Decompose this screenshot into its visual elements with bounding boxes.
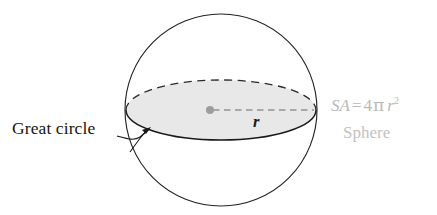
formula-radius-variable: r xyxy=(384,96,394,115)
formula-lhs: SA xyxy=(331,96,350,115)
formula-exponent: 2 xyxy=(394,95,399,106)
radius-variable-label: r xyxy=(253,114,259,131)
great-circle-label: Great circle xyxy=(12,120,95,138)
center-dot xyxy=(206,106,214,114)
formula-equals-sign: = xyxy=(350,96,364,115)
pi-symbol: π xyxy=(372,95,384,115)
sphere-diagram: Great circle SA=4πr2 Sphere r xyxy=(0,0,437,215)
formula-coefficient: 4 xyxy=(363,96,372,115)
sphere-name-label: Sphere xyxy=(343,124,390,141)
surface-area-formula: SA=4πr2 xyxy=(331,96,399,114)
